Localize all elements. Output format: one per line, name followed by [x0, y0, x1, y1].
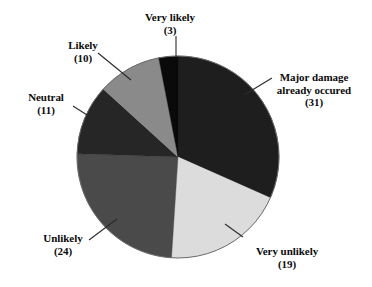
- slice-label-major-damage-name-1: Major damage: [258, 71, 370, 84]
- slice-label-unlikely: Unlikely (24): [24, 232, 102, 257]
- slice-label-very-likely-name: Very likely: [122, 11, 218, 24]
- slice-label-major-damage: Major damage already occured (31): [258, 71, 370, 109]
- slice-label-very-likely: Very likely (3): [122, 11, 218, 36]
- pie-slices-group: [77, 56, 279, 258]
- slice-label-very-unlikely-count: (19): [232, 258, 342, 271]
- slice-label-neutral-name: Neutral: [7, 91, 85, 104]
- pie-chart-figure: Very likely (3) Major damage already occ…: [0, 0, 372, 287]
- slice-label-major-damage-count: (31): [258, 96, 370, 109]
- slice-label-unlikely-count: (24): [24, 245, 102, 258]
- slice-label-major-damage-name-2: already occured: [258, 84, 370, 97]
- slice-label-very-unlikely-name: Very unlikely: [232, 245, 342, 258]
- slice-label-very-likely-count: (3): [122, 24, 218, 37]
- slice-label-likely-count: (10): [49, 52, 117, 65]
- slice-label-likely: Likely (10): [49, 39, 117, 64]
- slice-label-neutral: Neutral (11): [7, 91, 85, 116]
- slice-label-unlikely-name: Unlikely: [24, 232, 102, 245]
- slice-label-neutral-count: (11): [7, 104, 85, 117]
- slice-label-likely-name: Likely: [49, 39, 117, 52]
- slice-label-very-unlikely: Very unlikely (19): [232, 245, 342, 270]
